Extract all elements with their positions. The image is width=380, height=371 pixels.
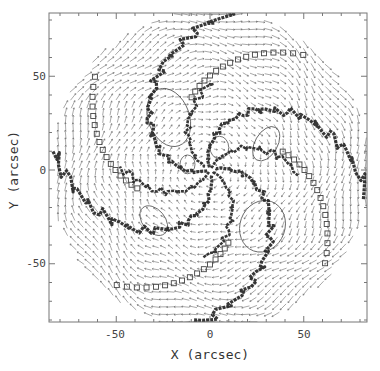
y-tick-label: -50: [26, 257, 46, 270]
x-tick-labels: -50 0 50: [105, 328, 311, 341]
x-tick-label: 50: [297, 328, 310, 341]
velocity-field-plot: -50 0 50 50 0 -50 X (arcsec) Y (arcsec): [0, 0, 380, 371]
x-axis-label: X (arcsec): [171, 347, 249, 362]
y-axis-label: Y (arcsec): [6, 131, 21, 209]
x-tick-label: 0: [207, 328, 214, 341]
y-tick-label: 50: [33, 70, 46, 83]
spiral-ridges: [53, 11, 365, 328]
y-tick-label: 0: [39, 164, 46, 177]
x-tick-label: -50: [105, 328, 125, 341]
y-tick-labels: 50 0 -50: [26, 70, 46, 270]
